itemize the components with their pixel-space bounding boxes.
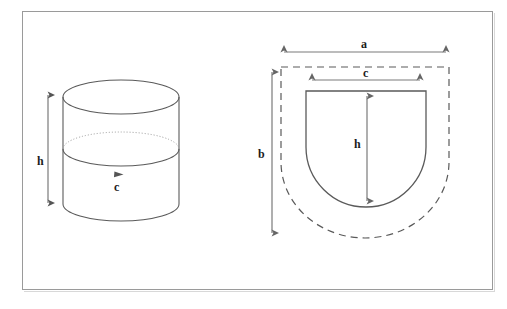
outer-width-label: a bbox=[361, 38, 367, 50]
inner-solid-outline bbox=[306, 91, 426, 207]
outer-height-label: b bbox=[258, 148, 265, 160]
inner-width-label: c bbox=[363, 67, 368, 79]
diagram-canvas: h c a b c h bbox=[0, 0, 507, 309]
inner-height-label: h bbox=[354, 138, 361, 150]
diagram-frame: h c a b c h bbox=[22, 11, 493, 290]
